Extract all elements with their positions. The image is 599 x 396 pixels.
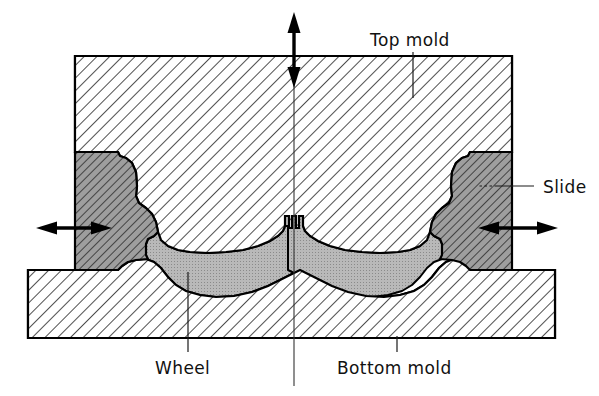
arrow-head-up [288,12,301,33]
mold-cross-section-figure: Top mold Slide Wheel Bottom mold [0,0,599,396]
label-wheel: Wheel [155,358,210,378]
diagram-root: Top mold Slide Wheel Bottom mold [0,0,599,396]
label-bottom-mold: Bottom mold [337,358,452,378]
arrow-head-right [537,222,558,235]
label-top-mold: Top mold [369,30,450,50]
arrow-head-left [36,222,57,235]
label-slide: Slide [543,177,587,197]
